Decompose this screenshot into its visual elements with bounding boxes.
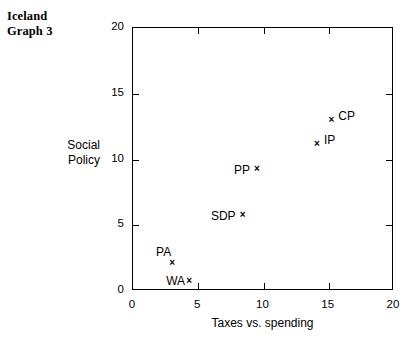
data-point-label: IP xyxy=(324,134,335,146)
y-axis-tick xyxy=(133,160,139,161)
y-axis-tick-label: 10 xyxy=(94,153,124,165)
plot-area: ×CP×IP×PP×SDP×PA×WA xyxy=(132,27,393,290)
x-axis-tick-label: 10 xyxy=(248,299,278,311)
x-axis-tick-label: 20 xyxy=(378,299,408,311)
x-axis-tick xyxy=(329,28,330,34)
y-axis-tick-label: 5 xyxy=(94,218,124,230)
data-point-marker: × xyxy=(239,210,247,220)
data-point-marker: × xyxy=(327,115,335,125)
chart-title: Iceland Graph 3 xyxy=(7,9,53,38)
x-axis-tick-label: 15 xyxy=(313,299,343,311)
x-axis-tick xyxy=(198,28,199,34)
x-axis-tick-label: 0 xyxy=(117,299,147,311)
x-axis-tick-label: 5 xyxy=(182,299,212,311)
data-point-marker: × xyxy=(313,139,321,149)
x-axis-tick xyxy=(329,283,330,289)
x-axis-tick xyxy=(264,28,265,34)
y-axis-label: Social Policy xyxy=(24,138,100,168)
y-axis-tick-label: 15 xyxy=(94,87,124,99)
y-axis-tick-label: 20 xyxy=(94,21,124,33)
data-point-label: WA xyxy=(166,275,185,287)
data-point-marker: × xyxy=(168,258,176,268)
y-axis-tick xyxy=(386,225,392,226)
x-axis-label: Taxes vs. spending xyxy=(132,316,393,330)
data-point-label: SDP xyxy=(211,210,236,222)
y-axis-tick xyxy=(133,225,139,226)
y-axis-tick xyxy=(133,94,139,95)
data-point-marker: × xyxy=(253,164,261,174)
y-axis-tick-label: 0 xyxy=(94,284,124,296)
data-point-label: PA xyxy=(156,246,171,258)
y-axis-tick xyxy=(386,160,392,161)
chart-figure: Iceland Graph 3 Social Policy Taxes vs. … xyxy=(0,0,419,345)
data-point-label: CP xyxy=(338,110,355,122)
y-axis-tick xyxy=(386,94,392,95)
x-axis-tick xyxy=(264,283,265,289)
x-axis-tick xyxy=(198,283,199,289)
data-point-label: PP xyxy=(234,164,250,176)
data-point-marker: × xyxy=(185,276,193,286)
